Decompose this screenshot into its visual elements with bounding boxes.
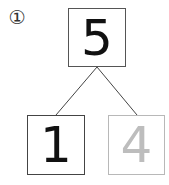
part-number-left: 1 xyxy=(40,116,72,174)
connector-line-right xyxy=(97,67,137,115)
whole-number: 5 xyxy=(81,9,113,67)
part-box-right[interactable]: 4 xyxy=(108,115,165,175)
connector-line-left xyxy=(56,67,97,115)
whole-number-box: 5 xyxy=(68,8,126,67)
part-number-right-traced: 4 xyxy=(121,116,153,174)
part-box-left: 1 xyxy=(27,115,85,175)
